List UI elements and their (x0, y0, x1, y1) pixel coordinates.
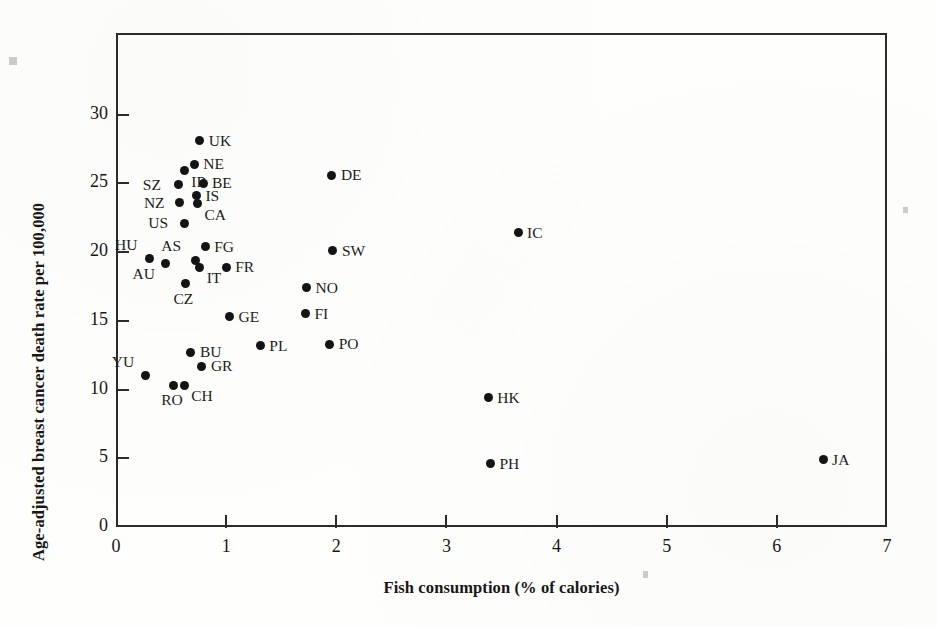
scatter-point-label: HK (497, 390, 519, 406)
scatter-point-label: AS (161, 238, 181, 254)
scatter-point (181, 279, 190, 288)
scan-speck (9, 57, 17, 65)
scatter-point-label: FI (314, 306, 328, 322)
y-tick-label: 0 (68, 515, 108, 536)
x-tick-mark (556, 515, 558, 528)
scatter-point (201, 242, 210, 251)
scatter-point (180, 381, 189, 390)
scatter-point (484, 393, 493, 402)
figure-page: Age-adjusted breast cancer death rate pe… (0, 0, 937, 627)
y-tick-mark (116, 389, 129, 391)
x-tick-mark (335, 515, 337, 528)
scatter-point (190, 160, 199, 169)
scatter-point-label: FR (235, 259, 254, 275)
scatter-point-label: YU (112, 354, 134, 370)
x-tick-label: 6 (757, 536, 797, 557)
y-axis-tick-labels: 051015202530 (46, 0, 108, 627)
scatter-point (325, 340, 334, 349)
scatter-point-label: IS (205, 188, 219, 204)
x-tick-label: 2 (316, 536, 356, 557)
y-tick-label: 25 (68, 171, 108, 192)
scatter-point-label: CZ (173, 291, 193, 307)
scatter-point-label: GR (211, 358, 233, 374)
x-tick-mark (225, 515, 227, 528)
scatter-point-label: SZ (143, 177, 161, 193)
scan-speck (903, 207, 908, 213)
scatter-point (819, 455, 828, 464)
scatter-point-label: UK (209, 133, 231, 149)
scatter-point-label: SW (342, 243, 365, 259)
scatter-point-label: PO (339, 336, 359, 352)
scatter-point (161, 259, 170, 268)
scatter-point (145, 254, 154, 263)
y-tick-mark (116, 114, 129, 116)
scatter-point-label: IT (207, 270, 222, 286)
x-tick-mark (445, 515, 447, 528)
x-tick-label: 1 (206, 536, 246, 557)
y-tick-label: 20 (68, 240, 108, 261)
scatter-point-label: FG (214, 239, 234, 255)
scatter-point-label: NE (203, 156, 224, 172)
scatter-point-label: AU (133, 266, 155, 282)
scatter-point (225, 312, 234, 321)
x-tick-mark (666, 515, 668, 528)
scatter-point-label: PL (269, 338, 287, 354)
scatter-point-label: DE (341, 167, 362, 183)
y-tick-mark (116, 457, 129, 459)
x-tick-label: 5 (647, 536, 687, 557)
scatter-point-label: NZ (144, 195, 165, 211)
scatter-point-label: NO (316, 280, 338, 296)
scatter-point-label: PH (499, 456, 519, 472)
scatter-point-label: RO (161, 392, 183, 408)
x-tick-label: 0 (96, 536, 136, 557)
scatter-point-label: HU (115, 237, 137, 253)
plot-area (116, 33, 887, 527)
scatter-point (180, 219, 189, 228)
scatter-point-label: CH (191, 388, 213, 404)
y-tick-label: 10 (68, 378, 108, 399)
x-tick-label: 4 (537, 536, 577, 557)
scatter-point (222, 263, 231, 272)
x-tick-label: 7 (867, 536, 907, 557)
y-tick-mark (116, 182, 129, 184)
scatter-point-label: GE (238, 309, 259, 325)
x-tick-label: 3 (426, 536, 466, 557)
scan-speck (643, 571, 648, 578)
y-tick-mark (116, 320, 129, 322)
y-tick-label: 5 (68, 446, 108, 467)
scatter-point (169, 381, 178, 390)
scatter-point-label: CA (205, 207, 227, 223)
scatter-point (195, 263, 204, 272)
x-tick-mark (776, 515, 778, 528)
x-axis-title: Fish consumption (% of calories) (116, 578, 887, 598)
scatter-point-label: US (148, 215, 168, 231)
scatter-point (327, 171, 336, 180)
scatter-point (197, 362, 206, 371)
scatter-point (514, 228, 523, 237)
y-tick-label: 15 (68, 309, 108, 330)
scatter-point (256, 341, 265, 350)
scatter-point-label: JA (832, 452, 849, 468)
scatter-point-label: IC (527, 225, 543, 241)
y-tick-label: 30 (68, 103, 108, 124)
